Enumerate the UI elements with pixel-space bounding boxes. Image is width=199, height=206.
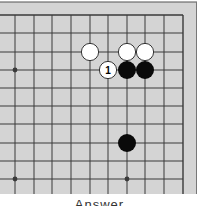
black-stone-icon — [136, 61, 154, 79]
star-point-icon — [13, 68, 18, 73]
diagram-caption: Answer — [0, 197, 199, 206]
black-stone-icon — [118, 61, 136, 79]
black-stone-icon — [118, 134, 136, 152]
white-stone-icon — [136, 43, 153, 60]
board-background — [0, 2, 196, 194]
star-point-icon — [125, 177, 130, 182]
caption-container: Answer — [0, 195, 199, 206]
white-stone-icon — [81, 43, 98, 60]
white-stone[interactable] — [81, 43, 98, 60]
white-stone-icon — [118, 43, 135, 60]
white-stone[interactable]: 1 — [99, 61, 116, 78]
white-stone[interactable] — [136, 43, 153, 60]
white-stone[interactable] — [118, 43, 135, 60]
black-stone[interactable] — [118, 134, 136, 152]
star-point-icon — [13, 177, 18, 182]
black-stone[interactable] — [118, 61, 136, 79]
black-stone[interactable] — [136, 61, 154, 79]
move-number-label: 1 — [105, 65, 111, 76]
go-board[interactable]: 1 — [0, 0, 199, 194]
